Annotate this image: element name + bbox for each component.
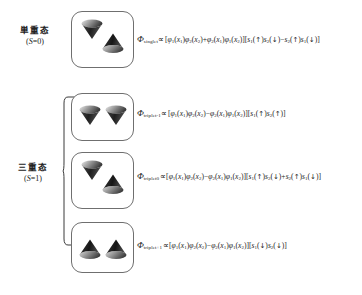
diagram-box-triplet-plus-1 xyxy=(71,222,134,273)
cone-up-icon xyxy=(103,236,129,262)
formula-triplet-minus-1: Φtriplet-1∝[φ1(x1)φ2(x2)−φ2(x1)φ1(x2)][s… xyxy=(137,109,286,118)
proportional-icon: ∝ xyxy=(158,35,165,44)
formula-subscript: triplet-1 xyxy=(144,113,161,118)
proportional-icon: ∝ xyxy=(162,241,169,250)
group-label-singlet: 単重态 (S=0) xyxy=(4,26,66,46)
group-label-triplet: 三重态 (S=1) xyxy=(2,163,64,183)
formula-spin-part: [s1(↓)s2(↓)] xyxy=(249,241,287,250)
cone-down-icon xyxy=(103,103,129,129)
formula-singlet: Φsinglet∝[φ1(x1)φ2(x2)+φ2(x1)φ1(x2)][s1(… xyxy=(137,35,320,44)
formula-subscript: triplet0 xyxy=(144,176,159,181)
group-label-singlet-spin: (S=0) xyxy=(4,37,66,46)
formula-symbol: Φ xyxy=(137,34,144,44)
cone-up-icon xyxy=(100,171,126,197)
formula-triplet-zero: Φtriplet0∝[φ1(x1)φ2(x2)−φ2(x1)φ1(x2)][s1… xyxy=(137,172,321,181)
formula-triplet-plus-1: Φtriplet+1∝[φ1(x1)φ2(x2)−φ2(x1)φ1(x2)][s… xyxy=(137,241,287,250)
group-label-triplet-cn: 三重态 xyxy=(2,163,64,173)
formula-symbol: Φ xyxy=(137,240,144,250)
cone-up-icon xyxy=(100,30,126,56)
formula-subscript: singlet xyxy=(144,39,158,44)
cone-down-icon xyxy=(77,103,103,129)
formula-symbol: Φ xyxy=(137,171,144,181)
diagram-box-triplet-zero xyxy=(71,152,134,209)
proportional-icon: ∝ xyxy=(161,109,168,118)
formula-spatial-part: [φ1(x1)φ2(x2)−φ2(x1)φ1(x2)] xyxy=(169,241,249,250)
formula-spin-part: [s1(↑)s2(↑)] xyxy=(248,109,286,118)
diagram-box-triplet-minus-1 xyxy=(71,93,134,141)
formula-spatial-part: [φ1(x1)φ2(x2)−φ2(x1)φ1(x2)] xyxy=(168,109,248,118)
group-label-triplet-spin: (S=1) xyxy=(2,174,64,183)
formula-subscript: triplet+1 xyxy=(144,245,162,250)
formula-spatial-part: [φ1(x1)φ2(x2)+φ2(x1)φ1(x2)] xyxy=(165,35,245,44)
formula-spatial-part: [φ1(x1)φ2(x2)−φ2(x1)φ1(x2)] xyxy=(166,172,246,181)
group-label-singlet-cn: 単重态 xyxy=(4,26,66,36)
cone-up-icon xyxy=(77,236,103,262)
formula-symbol: Φ xyxy=(137,108,144,118)
formula-spin-part: [s1(↑)s2(↓)−s2(↑)s1(↓)] xyxy=(245,35,320,44)
formula-spin-part: [s1(↑)s2(↓)+s2(↑)s1(↓)] xyxy=(246,172,321,181)
diagram-box-singlet xyxy=(71,11,134,68)
